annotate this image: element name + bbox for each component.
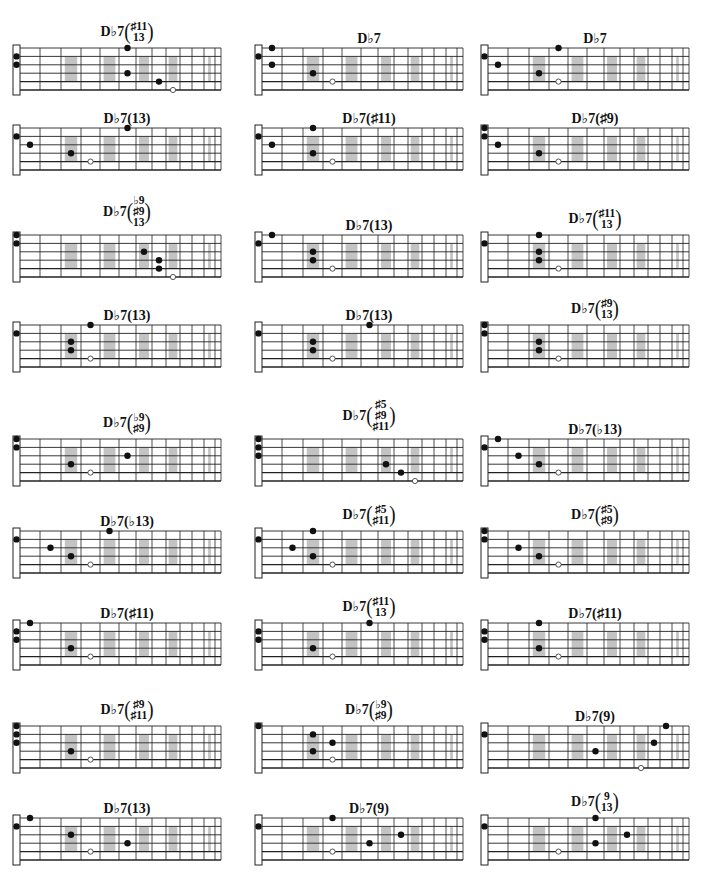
fret-marker (307, 136, 319, 161)
open-circle (330, 757, 335, 762)
fret-marker (411, 631, 420, 656)
nut-dot (255, 444, 261, 450)
chord-name: D♭7(♭13) (480, 422, 710, 437)
fret-marker (307, 447, 319, 472)
fretboard (254, 125, 466, 179)
fret-marker (676, 136, 679, 161)
chord-extension-stack: ♯1113 (599, 208, 616, 230)
finger-dot (68, 553, 74, 559)
finger-dot (27, 815, 33, 821)
nut-dot (481, 628, 487, 634)
close-paren: ) (145, 415, 151, 432)
fret-marker (676, 539, 679, 564)
chord-name: D♭7(♭13) (12, 514, 242, 529)
nut-dot (13, 240, 19, 246)
fretboard (12, 723, 224, 777)
finger-dot (398, 832, 404, 838)
chord-name: D♭7(9) (480, 709, 710, 724)
fret-marker (381, 826, 391, 851)
finger-dot (495, 436, 501, 442)
open-paren: ( (366, 507, 372, 524)
nut-dot (13, 53, 19, 59)
fret-marker (169, 56, 178, 81)
finger-dot (124, 125, 130, 131)
chord-diagram: D♭7(♯913) (480, 310, 710, 410)
chord-root: D♭7 (345, 703, 369, 717)
nut (13, 125, 20, 175)
fret-marker (411, 734, 420, 759)
fret-marker (139, 734, 149, 759)
fret-marker (450, 447, 453, 472)
chord-extension-stack: 913 (601, 791, 613, 813)
nut-dot (481, 322, 487, 328)
fret-marker (169, 734, 178, 759)
chord-extension: ♯11 (373, 421, 390, 432)
nut (13, 620, 20, 670)
chord-root: D♭7 (343, 409, 367, 423)
open-paren: ( (366, 407, 372, 424)
fretboard (12, 528, 224, 582)
chord-root: D♭7 (571, 112, 595, 126)
fret-marker (637, 447, 646, 472)
chord-extension-stack: ♯5♯11 (373, 504, 390, 526)
nut (255, 723, 262, 773)
chord-extension: (13) (127, 309, 150, 323)
finger-dot (536, 232, 542, 238)
fret-marker (65, 631, 77, 656)
chord-extension-stack: ♯1113 (131, 21, 148, 43)
finger-dot (651, 740, 657, 746)
chord-extension: 13 (133, 217, 145, 228)
fretboard (254, 45, 466, 99)
nut-dot (481, 53, 487, 59)
fret-marker (169, 333, 178, 358)
fret-marker (607, 826, 617, 851)
fretboard (480, 322, 692, 376)
nut-dot (13, 628, 19, 634)
chord-name: D♭7(913) (480, 791, 710, 813)
finger-dot (366, 322, 372, 328)
fret-marker (208, 734, 211, 759)
finger-dot (592, 815, 598, 821)
fret-marker (208, 56, 211, 81)
finger-dot (383, 461, 389, 467)
finger-dot (310, 257, 316, 263)
finger-dot (536, 620, 542, 626)
fret-marker (676, 333, 679, 358)
fret-marker (381, 539, 391, 564)
fret-marker (139, 243, 149, 268)
finger-dot (68, 347, 74, 353)
finger-dot (310, 125, 316, 131)
finger-dot (310, 748, 316, 754)
chord-root: D♭7 (345, 309, 369, 323)
fret-marker (65, 734, 77, 759)
fret-marker (307, 333, 319, 358)
close-paren: ) (147, 24, 153, 41)
chord-extension-stack: ♭9♯9 (375, 699, 387, 721)
nut-dot (481, 133, 487, 139)
fret-marker (637, 56, 646, 81)
chord-diagram: D♭7(♭13) (12, 508, 242, 608)
finger-dot (106, 528, 112, 534)
chord-root: D♭7 (568, 607, 592, 621)
open-paren: ( (127, 203, 133, 220)
chord-root: D♭7 (343, 508, 367, 522)
chord-name: D♭7(13) (12, 308, 242, 323)
finger-dot (310, 339, 316, 345)
chord-name: D♭7(13) (254, 308, 484, 323)
chord-name: D♭7 (254, 31, 484, 46)
open-circle (170, 274, 175, 279)
chord-root: D♭7 (103, 205, 127, 219)
finger-dot (592, 840, 598, 846)
chord-extension-stack: ♯1113 (373, 596, 390, 618)
nut (481, 528, 488, 578)
nut (255, 815, 262, 865)
fret-marker (169, 826, 178, 851)
chord-extension-stack: ♯9♯11 (131, 699, 148, 721)
fret-marker (307, 826, 319, 851)
chord-root: D♭7 (569, 212, 593, 226)
nut-dot (255, 53, 261, 59)
fret-marker (450, 539, 453, 564)
fret-marker (533, 734, 545, 759)
chord-name: D♭7(♯1113) (12, 21, 242, 43)
chord-name: D♭7(♯1113) (254, 596, 484, 618)
